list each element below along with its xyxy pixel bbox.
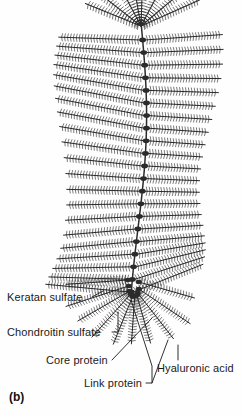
link-protein-node: [136, 287, 142, 291]
link-protein-node: [143, 101, 150, 106]
link-protein-node: [136, 214, 143, 219]
figure-caption: (b): [9, 390, 24, 404]
link-protein-node: [135, 227, 142, 232]
link-protein-node: [130, 264, 137, 269]
link-protein-node: [143, 138, 150, 143]
link-protein-node: [143, 113, 150, 118]
link-protein-node: [139, 38, 146, 43]
link-protein-node: [141, 63, 148, 68]
label-chondroitin-sulfate: Chondroitin sulfate: [7, 327, 101, 338]
link-protein-node: [140, 50, 147, 55]
link-protein-node: [140, 176, 147, 181]
link-protein-node: [126, 284, 132, 288]
label-link-protein: Link protein: [84, 378, 142, 389]
proteoglycan-aggregate-diagram: [0, 0, 243, 416]
link-protein-node: [133, 239, 140, 244]
link-protein-node: [136, 280, 142, 284]
link-protein-node: [142, 75, 149, 80]
link-protein-node: [143, 126, 150, 131]
link-protein-node: [125, 278, 131, 282]
link-protein-node: [141, 164, 148, 169]
link-protein-node: [139, 189, 146, 194]
link-protein-node: [142, 151, 149, 156]
link-protein-node: [143, 88, 150, 93]
label-keratan-sulfate: Keratan sulfate: [7, 292, 83, 303]
link-protein-node: [138, 201, 145, 206]
label-core-protein: Core protein: [46, 355, 108, 366]
figure-proteoglycan-aggregate: Keratan sulfate Chondroitin sulfate Core…: [0, 0, 243, 416]
link-protein-node: [135, 291, 141, 295]
link-protein-node: [132, 252, 139, 257]
label-hyaluronic-acid: Hyaluronic acid: [157, 363, 234, 374]
